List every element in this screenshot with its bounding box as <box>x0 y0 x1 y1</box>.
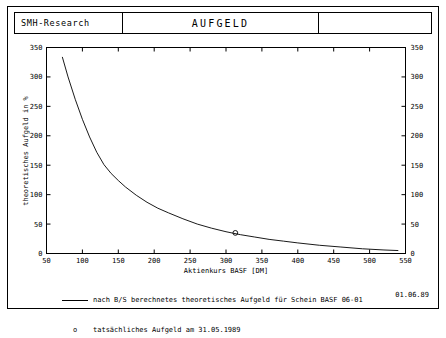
legend-line-swatch <box>62 300 88 301</box>
svg-text:200: 200 <box>148 257 161 265</box>
svg-text:350: 350 <box>30 44 43 52</box>
svg-text:350: 350 <box>411 44 424 52</box>
svg-text:150: 150 <box>411 162 424 170</box>
svg-text:250: 250 <box>411 103 424 111</box>
svg-text:50: 50 <box>34 221 42 229</box>
legend-line-label: nach B/S berechnetes theoretisches Aufge… <box>93 295 363 305</box>
svg-text:350: 350 <box>256 257 269 265</box>
legend-marker-label: tatsächliches Aufgeld am 31.05.1989 <box>93 325 241 335</box>
svg-text:0: 0 <box>411 250 415 258</box>
svg-text:200: 200 <box>411 132 424 140</box>
legend-marker-swatch: o <box>62 325 88 335</box>
legend: nach B/S berechnetes theoretisches Aufge… <box>62 275 363 338</box>
svg-text:100: 100 <box>76 257 89 265</box>
svg-text:0: 0 <box>38 250 42 258</box>
svg-text:300: 300 <box>30 73 43 81</box>
date-stamp: 01.06.89 <box>395 291 429 299</box>
svg-text:200: 200 <box>30 132 43 140</box>
svg-text:300: 300 <box>411 73 424 81</box>
svg-text:100: 100 <box>30 191 43 199</box>
svg-text:500: 500 <box>363 257 376 265</box>
legend-item-line: nach B/S berechnetes theoretisches Aufge… <box>62 295 363 305</box>
svg-text:300: 300 <box>220 257 233 265</box>
svg-text:50: 50 <box>42 257 50 265</box>
svg-text:150: 150 <box>30 162 43 170</box>
svg-text:100: 100 <box>411 191 424 199</box>
svg-text:50: 50 <box>411 221 419 229</box>
svg-text:150: 150 <box>112 257 125 265</box>
legend-item-marker: o tatsächliches Aufgeld am 31.05.1989 <box>62 325 363 335</box>
svg-text:400: 400 <box>291 257 304 265</box>
svg-text:Aktienkurs BASF [DM]: Aktienkurs BASF [DM] <box>184 267 268 275</box>
svg-text:250: 250 <box>184 257 197 265</box>
svg-text:250: 250 <box>30 103 43 111</box>
svg-text:450: 450 <box>327 257 340 265</box>
